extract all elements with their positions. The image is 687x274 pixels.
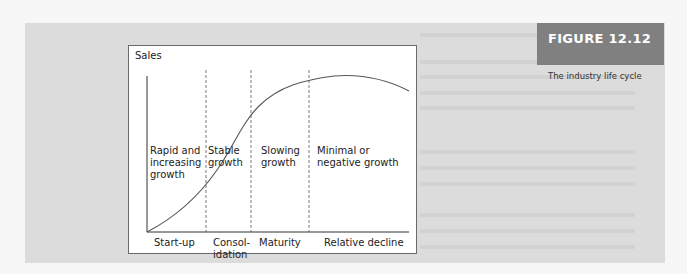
stage-label-startup: Start-up [154, 237, 195, 249]
background-text-line [420, 182, 635, 186]
background-text-line [420, 106, 635, 110]
background-text-line [420, 213, 635, 217]
stage-label-consolidation: Consol- idation [213, 237, 250, 261]
growth-label-consolidation: Stable growth [208, 145, 243, 169]
figure-number: FIGURE 12.12 [548, 31, 651, 46]
figure-caption: The industry life cycle [548, 71, 642, 81]
growth-label-startup: Rapid and increasing growth [150, 145, 201, 181]
background-text-line [420, 229, 635, 233]
background-text-line [420, 245, 635, 249]
background-text-line [420, 91, 635, 95]
life-cycle-chart: Sales Rapid and increasing growth Stable… [128, 45, 417, 254]
stage-label-maturity: Maturity [259, 237, 301, 249]
growth-label-maturity: Slowing growth [261, 145, 300, 169]
growth-label-decline: Minimal or negative growth [317, 145, 399, 169]
background-text-line [420, 150, 635, 154]
y-axis-label: Sales [135, 50, 162, 62]
background-text-line [420, 166, 635, 170]
stage-label-decline: Relative decline [324, 237, 404, 249]
